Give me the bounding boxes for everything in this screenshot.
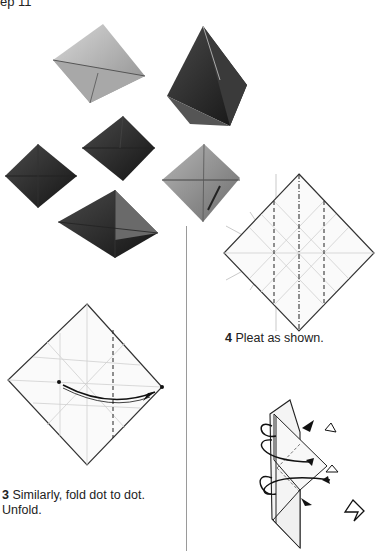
dark-pyramid-photo: [167, 26, 247, 126]
step3-dot-left: [57, 380, 61, 384]
step3-dot-right: [160, 385, 164, 389]
dark-large-octahedron-photo: [58, 190, 158, 258]
dark-small-left-photo: [5, 144, 77, 208]
step4-text: Pleat as shown.: [235, 331, 323, 345]
turn-over-icon: [345, 500, 364, 521]
model-photos: [0, 0, 379, 260]
light-octahedron-photo: [53, 24, 145, 103]
step3-square: [8, 304, 162, 465]
push-arrow-top: [325, 423, 336, 432]
pleat-arrows: [260, 424, 330, 494]
step3-text-line2: Unfold.: [2, 503, 42, 517]
grey-octahedron-photo: [162, 144, 240, 222]
step3-text: Similarly, fold dot to dot.: [12, 488, 144, 502]
step3-caption: 3 Similarly, fold dot to dot. Unfold.: [2, 488, 182, 518]
step4-caption: 4 Pleat as shown.: [225, 331, 375, 346]
column-divider: [186, 226, 187, 551]
dark-small-center-photo: [82, 116, 155, 181]
step4-number: 4: [225, 331, 232, 345]
step3-arrow: [63, 385, 155, 400]
step3-number: 3: [2, 488, 9, 502]
push-arrow-mid: [326, 465, 338, 472]
